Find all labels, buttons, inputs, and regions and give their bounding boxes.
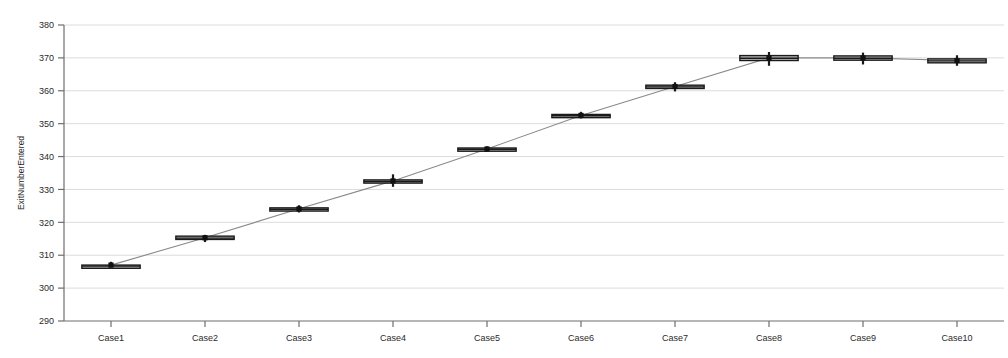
mean-marker — [296, 206, 301, 211]
x-axis-tick-label: Case1 — [98, 333, 124, 343]
mean-marker — [202, 235, 207, 240]
y-axis-tick-label: 340 — [39, 152, 54, 162]
y-axis-tick-label: 290 — [39, 316, 54, 326]
y-axis-tick-label: 310 — [39, 250, 54, 260]
y-axis-tick-label: 350 — [39, 119, 54, 129]
y-axis-tick-label: 380 — [39, 20, 54, 30]
y-axis-tick-label: 330 — [39, 185, 54, 195]
mean-marker — [390, 178, 395, 183]
mean-marker — [954, 58, 959, 63]
x-axis-tick-label: Case6 — [568, 333, 594, 343]
mean-marker — [108, 262, 113, 267]
x-axis-tick-label: Case2 — [192, 333, 218, 343]
mean-marker — [484, 146, 489, 151]
boxplot-chart-container: 290300310320330340350360370380 Case1Case… — [0, 0, 1008, 358]
y-axis-tick-label: 300 — [39, 283, 54, 293]
y-axis-title: ExitNumberEntered — [16, 136, 26, 210]
mean-marker — [578, 113, 583, 118]
mean-marker — [672, 84, 677, 89]
x-axis-tick-label: Case5 — [474, 333, 500, 343]
x-axis-tick-label: Case9 — [850, 333, 876, 343]
mean-marker — [860, 55, 865, 60]
x-axis-tick-label: Case7 — [662, 333, 688, 343]
boxplot-chart: 290300310320330340350360370380 Case1Case… — [0, 0, 1008, 358]
x-axis-tick-label: Case10 — [941, 333, 972, 343]
y-axis-tick-label: 360 — [39, 86, 54, 96]
y-axis-label-text: ExitNumberEntered — [16, 136, 26, 210]
y-axis-tick-label: 320 — [39, 218, 54, 228]
y-axis-tick-label: 370 — [39, 53, 54, 63]
chart-background — [0, 0, 1008, 358]
x-axis-tick-label: Case4 — [380, 333, 406, 343]
mean-marker — [766, 55, 771, 60]
x-axis-tick-label: Case8 — [756, 333, 782, 343]
x-axis-tick-label: Case3 — [286, 333, 312, 343]
